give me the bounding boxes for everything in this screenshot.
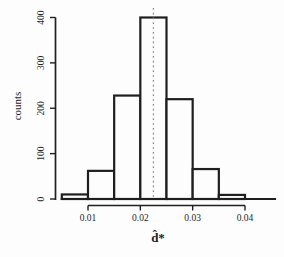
y-tick-label-400: 400 xyxy=(36,10,46,25)
histogram-bar-3 xyxy=(114,96,140,199)
y-axis-title: counts xyxy=(11,92,23,121)
x-axis-title: d̂* xyxy=(151,230,165,246)
histogram-bar-5 xyxy=(167,99,193,199)
y-tick-label-0: 0 xyxy=(36,196,46,201)
y-tick-label-100: 100 xyxy=(36,146,46,161)
x-tick-label-0.02: 0.02 xyxy=(132,213,149,223)
histogram-bar-1 xyxy=(62,194,88,199)
y-tick-label-300: 300 xyxy=(36,56,46,71)
histogram-bar-7 xyxy=(219,195,245,199)
plot-area: 01002003004000.010.020.030.04 xyxy=(0,0,284,257)
histogram-bar-2 xyxy=(88,171,114,199)
x-tick-label-0.01: 0.01 xyxy=(80,213,97,223)
y-tick-label-200: 200 xyxy=(36,101,46,116)
histogram-figure: 01002003004000.010.020.030.04 counts d̂* xyxy=(0,0,284,257)
histogram-bar-6 xyxy=(193,169,219,199)
x-tick-label-0.04: 0.04 xyxy=(237,213,254,223)
x-tick-label-0.03: 0.03 xyxy=(184,213,201,223)
